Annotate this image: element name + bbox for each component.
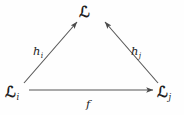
arrow-label-f-base: f [86, 97, 90, 111]
node-object-left: ℒi [5, 84, 19, 100]
arrow-label-h-j: hj [131, 42, 141, 58]
arrow-label-h-i: hi [33, 42, 43, 58]
node-left-subscript: i [17, 92, 20, 102]
arrow-h-i [24, 22, 77, 83]
arrow-label-h-i-subscript: i [41, 51, 43, 60]
arrow-label-h-j-base: h [131, 44, 138, 58]
node-right-subscript: j [169, 92, 172, 102]
node-right-symbol: ℒ [157, 83, 168, 101]
node-top-symbol: ℒ [79, 3, 90, 21]
node-left-symbol: ℒ [5, 83, 16, 101]
arrow-label-f: f [86, 95, 90, 111]
commutative-diagram: ℒ ℒi ℒj hi hj f [0, 0, 184, 115]
arrow-label-h-i-base: h [33, 44, 40, 58]
node-object-top: ℒ [79, 4, 90, 20]
node-object-right: ℒj [157, 84, 171, 100]
arrow-label-h-j-subscript: j [139, 51, 141, 60]
